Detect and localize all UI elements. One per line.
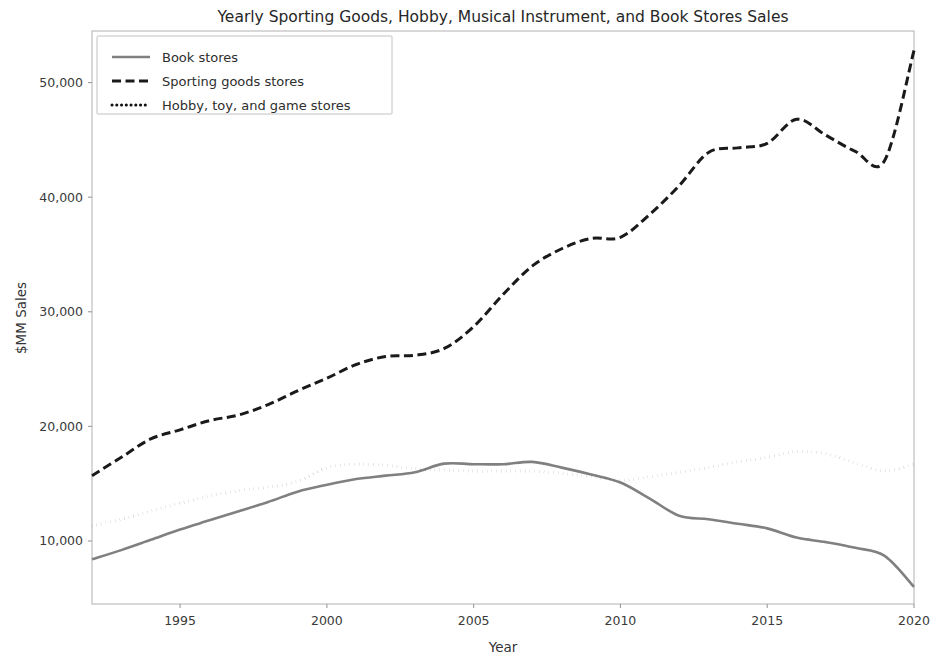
x-tick-label: 2020 <box>898 613 930 628</box>
series-group <box>92 50 914 586</box>
x-tick-label: 2005 <box>458 613 490 628</box>
line-chart: Yearly Sporting Goods, Hobby, Musical In… <box>0 0 941 672</box>
y-tick-label: 40,000 <box>39 190 83 205</box>
series-line-0 <box>92 462 914 587</box>
legend-label-2: Hobby, toy, and game stores <box>162 98 351 113</box>
series-line-2 <box>92 451 914 526</box>
legend-label-1: Sporting goods stores <box>162 74 304 89</box>
chart-page: Yearly Sporting Goods, Hobby, Musical In… <box>0 0 941 672</box>
y-tick-label: 10,000 <box>39 533 83 548</box>
chart-legend: Book storesSporting goods storesHobby, t… <box>97 36 392 114</box>
x-axis-label: Year <box>488 639 518 655</box>
y-tick-label: 30,000 <box>39 304 83 319</box>
x-tick-label: 2015 <box>751 613 783 628</box>
chart-title: Yearly Sporting Goods, Hobby, Musical In… <box>216 8 788 26</box>
y-tick-label: 50,000 <box>39 75 83 90</box>
x-tick-label: 1995 <box>164 613 196 628</box>
x-tick-label: 2010 <box>605 613 637 628</box>
x-axis-ticks: 199520002005201020152020 <box>164 604 930 628</box>
legend-label-0: Book stores <box>162 50 238 65</box>
y-tick-label: 20,000 <box>39 419 83 434</box>
y-axis-ticks: 10,00020,00030,00040,00050,000 <box>39 75 92 548</box>
x-tick-label: 2000 <box>311 613 343 628</box>
y-axis-label: $MM Sales <box>13 282 29 354</box>
